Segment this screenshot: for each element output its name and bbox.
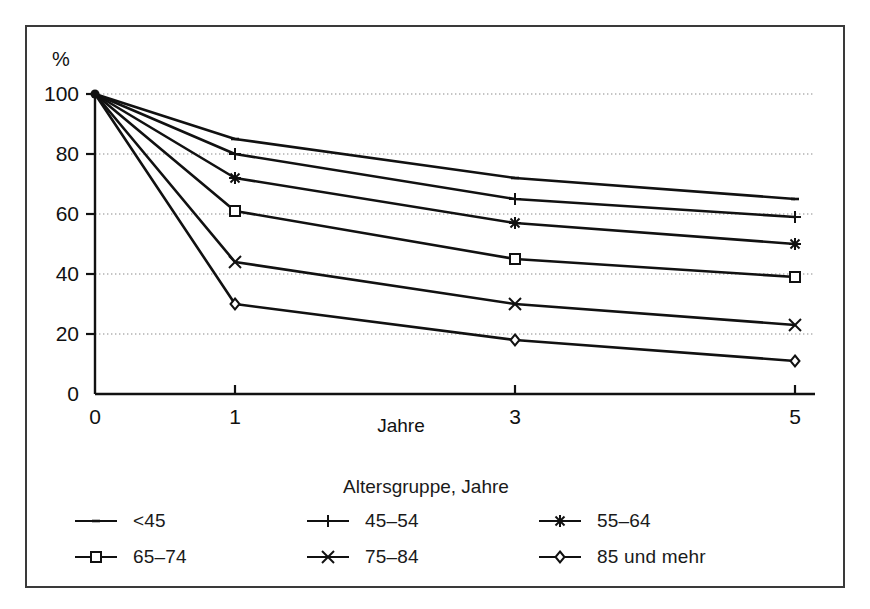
y-axis-unit-label: % xyxy=(52,48,70,71)
legend-item-label: <45 xyxy=(133,510,166,532)
legend-key xyxy=(537,512,583,530)
legend-item-label: 75–84 xyxy=(365,546,419,568)
legend-key xyxy=(537,548,583,566)
legend-item-65-74[interactable]: 65–74 xyxy=(73,546,305,568)
legend-item-label: 85 und mehr xyxy=(597,546,706,568)
legend-item-45-54[interactable]: 45–54 xyxy=(305,510,537,532)
legend-item-label: 65–74 xyxy=(133,546,187,568)
legend-marker-square xyxy=(73,548,119,566)
legend-item-label: 55–64 xyxy=(597,510,651,532)
legend-key xyxy=(73,512,119,530)
legend-marker-cross xyxy=(305,548,351,566)
legend-item-label: 45–54 xyxy=(365,510,419,532)
series-marker-diamond xyxy=(556,552,565,563)
legend-marker-plus xyxy=(305,512,351,530)
legend-item--45[interactable]: <45 xyxy=(73,510,305,532)
legend-marker-dash xyxy=(73,512,119,530)
legend-marker-diamond xyxy=(537,548,583,566)
legend-items: <4545–5455–6465–7475–8485 und mehr xyxy=(15,510,845,568)
legend-marker-asterisk xyxy=(537,512,583,530)
series-marker-square xyxy=(91,552,101,562)
legend-item-85-und-mehr[interactable]: 85 und mehr xyxy=(537,546,787,568)
legend-key xyxy=(73,548,119,566)
legend-title: Altersgruppe, Jahre xyxy=(7,476,845,498)
legend-key xyxy=(305,512,351,530)
chart-legend: Altersgruppe, Jahre <4545–5455–6465–7475… xyxy=(25,476,845,568)
legend-item-75-84[interactable]: 75–84 xyxy=(305,546,537,568)
x-axis-title: Jahre xyxy=(0,415,870,437)
legend-key xyxy=(305,548,351,566)
x-axis-title-text: Jahre xyxy=(377,415,425,437)
legend-item-55-64[interactable]: 55–64 xyxy=(537,510,787,532)
